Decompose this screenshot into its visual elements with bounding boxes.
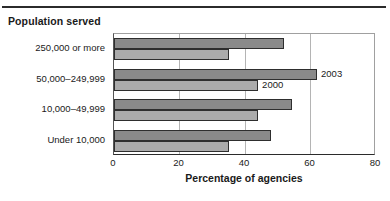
bar-2003-2 <box>114 99 292 110</box>
y-axis-label-2: 10,000–49,999 <box>42 103 105 114</box>
y-axis-label-0: 250,000 or more <box>35 42 105 53</box>
bar-2000-0 <box>114 49 229 60</box>
series-annotation-2003: 2003 <box>321 68 342 79</box>
plot-area: 20032000 <box>113 33 375 155</box>
bar-2000-1 <box>114 80 258 91</box>
x-tick-0: 0 <box>110 157 115 168</box>
x-tick-20: 20 <box>173 157 184 168</box>
x-axis-title: Percentage of agencies <box>113 172 375 184</box>
series-annotation-2000: 2000 <box>262 79 283 90</box>
cut-off-header-text <box>0 0 390 5</box>
x-tick-80: 80 <box>370 157 381 168</box>
chart-title: Population served <box>8 15 101 27</box>
bar-2000-3 <box>114 141 229 152</box>
bar-2000-2 <box>114 110 258 121</box>
y-axis-label-3: Under 10,000 <box>47 134 105 145</box>
bar-2003-3 <box>114 130 271 141</box>
bar-2003-0 <box>114 38 284 49</box>
header-divider <box>2 6 386 8</box>
x-axis-tick-labels: 020406080 <box>113 157 375 171</box>
y-axis-label-1: 50,000–249,999 <box>36 73 105 84</box>
bar-2003-1 <box>114 69 317 80</box>
x-tick-60: 60 <box>304 157 315 168</box>
gridline-60 <box>310 34 311 154</box>
y-axis-category-labels: 250,000 or more50,000–249,99910,000–49,9… <box>0 33 109 155</box>
x-tick-40: 40 <box>239 157 250 168</box>
